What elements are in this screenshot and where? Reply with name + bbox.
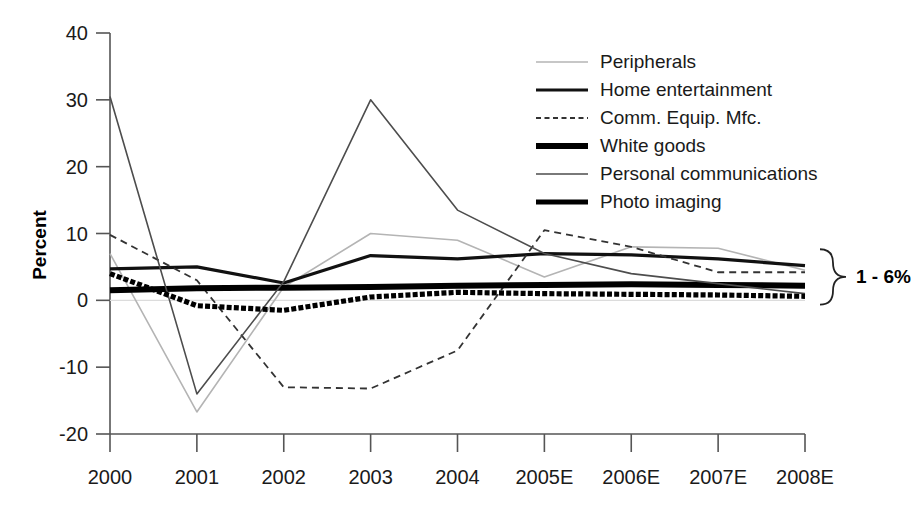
x-tick-label: 2004 — [435, 466, 480, 488]
line-chart: -20-10010203040 200020012002200320042005… — [0, 0, 924, 521]
legend-label: White goods — [600, 135, 706, 156]
x-tick-label: 2002 — [262, 466, 307, 488]
y-tick-label: 40 — [66, 22, 88, 44]
x-tick-label: 2007E — [689, 466, 747, 488]
x-tick-label: 2008E — [776, 466, 834, 488]
y-tick-label: 30 — [66, 89, 88, 111]
series-line — [110, 284, 805, 290]
legend-label: Personal communications — [600, 163, 818, 184]
range-annotation-label: 1 - 6% — [856, 266, 911, 287]
x-axis: 200020012002200320042005E2006E2007E2008E — [88, 434, 834, 488]
y-axis-title: Percent — [29, 209, 50, 279]
x-tick-label: 2003 — [348, 466, 393, 488]
series-line — [110, 274, 805, 311]
y-axis: -20-10010203040 — [59, 22, 110, 445]
y-tick-label: 20 — [66, 156, 88, 178]
legend-label: Comm. Equip. Mfc. — [600, 107, 762, 128]
series-line — [110, 254, 805, 283]
y-tick-label: -20 — [59, 423, 88, 445]
chart-container: -20-10010203040 200020012002200320042005… — [0, 0, 924, 521]
x-tick-label: 2005E — [515, 466, 573, 488]
x-tick-label: 2001 — [175, 466, 220, 488]
y-tick-label: 10 — [66, 223, 88, 245]
y-tick-label: -10 — [59, 356, 88, 378]
annotation-group: 1 - 6% — [820, 249, 911, 304]
series-line — [110, 230, 805, 388]
legend-label: Photo imaging — [600, 191, 721, 212]
y-tick-label: 0 — [77, 289, 88, 311]
legend-label: Home entertainment — [600, 79, 773, 100]
chart-legend: PeripheralsHome entertainmentComm. Equip… — [536, 51, 818, 212]
range-brace-icon — [820, 249, 846, 304]
legend-label: Peripherals — [600, 51, 696, 72]
x-tick-label: 2000 — [88, 466, 133, 488]
x-tick-label: 2006E — [602, 466, 660, 488]
